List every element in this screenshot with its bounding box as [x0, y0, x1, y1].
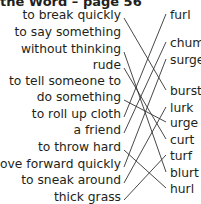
word-item: lurk: [170, 101, 193, 115]
match-line: [124, 14, 166, 117]
definition-item: to tell someone to: [9, 74, 121, 88]
definition-item: thick grass: [54, 190, 121, 204]
word-item: urge: [170, 116, 198, 130]
match-line: [124, 150, 166, 188]
definition-item: to roll up cloth: [32, 107, 121, 121]
definition-item: to sneak around: [21, 173, 121, 187]
definition-item: rude: [93, 58, 121, 72]
match-line: [124, 18, 166, 90]
definition-item: move forward quickly: [0, 157, 121, 171]
word-item: surge: [170, 53, 201, 67]
definition-item: to throw hard: [38, 140, 121, 154]
match-line: [124, 42, 166, 133]
word-item: blurt: [170, 166, 199, 180]
word-item: turf: [170, 149, 192, 163]
word-item: chum: [170, 36, 201, 50]
word-item: furl: [170, 8, 191, 22]
match-line: [124, 100, 166, 122]
word-item: curt: [170, 133, 194, 147]
definition-item: do something: [37, 90, 121, 104]
match-line: [124, 59, 166, 167]
definition-item: to say something: [15, 25, 122, 39]
word-item: burst: [170, 84, 201, 98]
match-line: [124, 52, 166, 172]
definition-item: a friend: [74, 123, 121, 137]
match-line: [124, 68, 166, 139]
word-item: hurl: [170, 182, 194, 196]
match-line: [124, 107, 166, 183]
match-line: [124, 155, 166, 200]
definition-item: to break quickly: [22, 8, 121, 22]
definition-item: without thinking: [21, 42, 121, 56]
